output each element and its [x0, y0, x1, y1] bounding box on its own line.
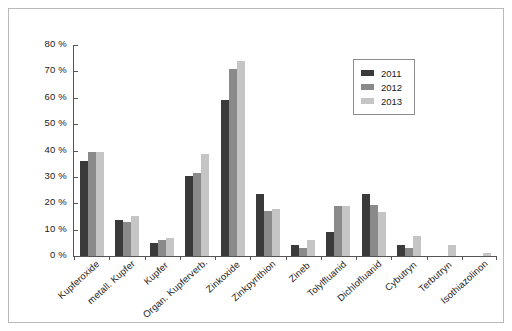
bar-2012[interactable]: [405, 248, 413, 256]
x-axis-label-cell: Zinkpyrithion: [250, 259, 285, 329]
x-axis-category-label: Zineb: [286, 260, 311, 284]
bar-2013[interactable]: [448, 245, 456, 256]
legend-color-swatch: [361, 84, 374, 90]
bar-2013[interactable]: [413, 236, 421, 256]
y-axis-tick-label: 20 %: [45, 196, 67, 207]
bar-2013[interactable]: [96, 152, 104, 256]
bar-2011[interactable]: [256, 194, 264, 256]
bar-group: [427, 45, 462, 256]
bar-group: [462, 45, 497, 256]
bar-2012[interactable]: [299, 248, 307, 256]
bar-group: [180, 45, 215, 256]
bar-2012[interactable]: [193, 173, 201, 256]
y-axis-tick-label: 80 %: [45, 38, 67, 49]
x-axis-category-label: Kupfer: [142, 259, 171, 286]
bar-group: [145, 45, 180, 256]
plot-area: 80 %70 %60 %50 %40 %30 %20 %10 %0 %: [73, 45, 497, 257]
bar-group: [286, 45, 321, 256]
bar-groups: [74, 45, 497, 256]
bar-group: [250, 45, 285, 256]
bar-2012[interactable]: [123, 222, 131, 256]
legend-color-swatch: [361, 70, 374, 76]
x-axis-label-cell: metall. Kupfer: [108, 259, 143, 329]
bar-2013[interactable]: [237, 61, 245, 256]
y-axis-tick-label: 60 %: [45, 91, 67, 102]
x-axis-label-cell: Organ. Kupferverb.: [179, 259, 214, 329]
bar-2011[interactable]: [291, 245, 299, 256]
bar-2012[interactable]: [370, 205, 378, 256]
bar-2011[interactable]: [150, 243, 158, 256]
bar-2013[interactable]: [483, 253, 491, 256]
bar-group: [321, 45, 356, 256]
bar-2011[interactable]: [221, 100, 229, 256]
bar-2012[interactable]: [334, 206, 342, 256]
legend-item-label: 2012: [381, 82, 402, 93]
legend-item-label: 2011: [381, 68, 401, 79]
y-axis-tick-label: 30 %: [45, 170, 67, 181]
y-axis-tick-label: 10 %: [45, 223, 67, 234]
bar-2013[interactable]: [342, 206, 350, 256]
legend-color-swatch: [361, 98, 374, 104]
y-axis-tick-label: 70 %: [45, 64, 67, 75]
y-axis-tick-label: 40 %: [45, 144, 67, 155]
bar-2013[interactable]: [272, 209, 280, 256]
legend: 201120122013: [353, 59, 415, 115]
legend-item-label: 2013: [381, 96, 402, 107]
bar-2012[interactable]: [229, 69, 237, 256]
legend-item[interactable]: 2013: [361, 94, 402, 108]
legend-item[interactable]: 2012: [361, 80, 402, 94]
x-axis-label-cell: Cybutryn: [391, 259, 426, 329]
bar-group: [215, 45, 250, 256]
y-axis-tick-label: 50 %: [45, 117, 67, 128]
bar-2012[interactable]: [264, 211, 272, 256]
x-axis-labels: Kupferoxidemetall. KupferKupferOrgan. Ku…: [73, 259, 497, 329]
chart-frame: 80 %70 %60 %50 %40 %30 %20 %10 %0 % Kupf…: [8, 8, 504, 323]
x-axis-label-cell: Isothiazolinon: [462, 259, 497, 329]
figure: 80 %70 %60 %50 %40 %30 %20 %10 %0 % Kupf…: [0, 0, 512, 331]
bar-2013[interactable]: [201, 154, 209, 256]
bar-group: [74, 45, 109, 256]
bar-2012[interactable]: [88, 152, 96, 256]
bar-2012[interactable]: [158, 240, 166, 256]
bar-2013[interactable]: [307, 240, 315, 256]
bar-2013[interactable]: [166, 238, 174, 256]
bar-2013[interactable]: [378, 212, 386, 256]
bar-2011[interactable]: [185, 176, 193, 256]
legend-item[interactable]: 2011: [361, 66, 402, 80]
bar-2011[interactable]: [115, 220, 123, 256]
bar-2013[interactable]: [131, 216, 139, 256]
x-axis-label-cell: Dichlofluanid: [356, 259, 391, 329]
bar-group: [109, 45, 144, 256]
bar-2011[interactable]: [397, 245, 405, 256]
bar-2011[interactable]: [362, 194, 370, 256]
y-axis-tick-label: 0 %: [50, 249, 67, 260]
bar-2011[interactable]: [326, 232, 334, 256]
bar-2011[interactable]: [80, 161, 88, 256]
